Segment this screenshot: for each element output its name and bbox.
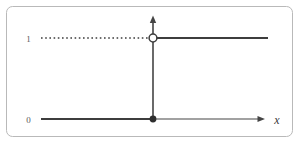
y-tick-label-one: 1 (26, 34, 31, 44)
filled-dot-marker (150, 116, 157, 123)
step-function-plot: 1 0 x (0, 0, 303, 145)
y-tick-label-zero: 0 (26, 115, 31, 125)
figure-frame (7, 7, 293, 137)
open-circle-marker (149, 34, 157, 42)
x-axis-label: x (273, 113, 280, 127)
figure-container: 1 0 x (0, 0, 303, 145)
